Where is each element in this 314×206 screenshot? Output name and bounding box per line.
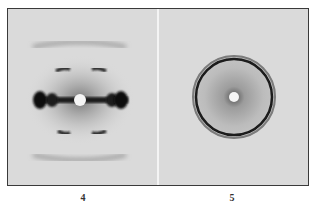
panel-label-4: 4 <box>73 192 93 203</box>
panel-5-diffraction-image <box>159 9 308 185</box>
ring-diffraction-pattern <box>159 9 308 185</box>
panel-label-5: 5 <box>222 192 242 203</box>
beam-center-spot <box>74 94 86 106</box>
panel-4-diffraction-image <box>8 9 157 185</box>
figure-frame <box>7 8 309 186</box>
fiber-diffraction-pattern <box>8 9 157 185</box>
beam-center-spot <box>229 92 239 102</box>
